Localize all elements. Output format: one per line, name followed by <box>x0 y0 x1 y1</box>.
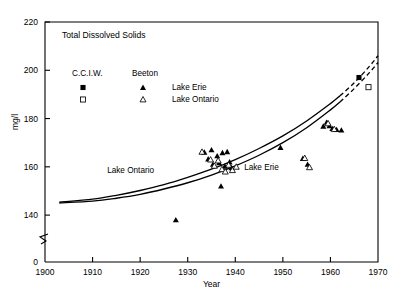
x-tick-label-1930: 1930 <box>178 267 197 277</box>
legend-header-beeton: Beeton <box>132 69 158 78</box>
data-point-2-10 <box>224 149 230 154</box>
legend-marker-beeton-0 <box>140 85 146 90</box>
y-axis-title: mg/l <box>10 114 20 130</box>
data-point-2-5 <box>214 153 220 158</box>
y-tick-label-zero: 0 <box>33 257 38 267</box>
data-point-2-7 <box>218 183 224 188</box>
x-tick-label-1910: 1910 <box>83 267 102 277</box>
legend-layer: C.C.I.W.BeetonLake ErieLake Ontario <box>72 69 219 104</box>
y-tick-label-160: 160 <box>24 162 38 172</box>
chart-title: Total Dissolved Solids <box>62 30 146 40</box>
legend-label-1: Lake Ontario <box>172 95 219 104</box>
data-point-2-21 <box>338 127 344 132</box>
legend-label-0: Lake Erie <box>172 83 207 92</box>
plot-frame <box>45 22 378 262</box>
x-tick-label-1900: 1900 <box>36 267 55 277</box>
chart-figure: 1401601802002200190019101920193019401950… <box>0 0 395 300</box>
curve-annotation-1: Lake Erie <box>244 163 279 172</box>
x-axis-title: Year <box>203 279 220 289</box>
data-point-4-0 <box>356 75 361 80</box>
legend-marker-cciw-1 <box>80 97 85 102</box>
legend-header-cciw: C.C.I.W. <box>72 69 102 78</box>
trend-line-solid-1 <box>59 96 340 202</box>
trend-line-dashed-0 <box>340 63 378 102</box>
labels-layer: Total Dissolved SolidsLake OntarioLake E… <box>62 30 279 175</box>
y-axis-break-symbol <box>40 234 48 244</box>
x-tick-label-1920: 1920 <box>131 267 150 277</box>
y-tick-label-180: 180 <box>24 114 38 124</box>
x-tick-label-1940: 1940 <box>226 267 245 277</box>
axes-layer: 1401601802002200190019101920193019401950… <box>10 17 388 289</box>
legend-marker-beeton-1 <box>140 97 146 102</box>
x-tick-label-1950: 1950 <box>273 267 292 277</box>
curve-annotation-0: Lake Ontario <box>107 166 154 175</box>
data-point-5-0 <box>366 85 371 90</box>
data-point-2-0 <box>173 217 179 222</box>
trend-curves-layer <box>59 56 378 203</box>
x-tick-label-1960: 1960 <box>321 267 340 277</box>
data-point-2-8 <box>219 150 225 155</box>
x-tick-label-1970: 1970 <box>369 267 388 277</box>
y-tick-label-220: 220 <box>24 17 38 27</box>
y-tick-label-140: 140 <box>24 210 38 220</box>
y-tick-label-200: 200 <box>24 65 38 75</box>
chart-canvas: 1401601802002200190019101920193019401950… <box>0 0 395 300</box>
data-point-2-3 <box>209 147 215 152</box>
legend-marker-cciw-0 <box>80 85 85 90</box>
